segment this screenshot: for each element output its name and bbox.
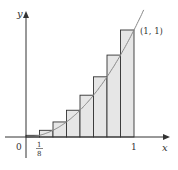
rectangle [67,110,81,137]
fraction-denominator: 8 [37,150,41,158]
y-axis-arrow-icon [23,11,29,18]
riemann-sum-diagram: y x 0 1 (1, 1) 1 8 [0,0,178,170]
y-axis-label: y [16,8,23,19]
x-one-label: 1 [131,142,137,152]
origin-label: 0 [16,142,22,152]
rectangle [121,30,135,137]
upper-sum-rectangles [26,30,134,137]
x-axis-label: x [162,142,168,153]
rectangle [107,55,121,137]
fraction-numerator: 1 [37,141,41,149]
x-axis-arrow-icon [163,134,170,140]
rectangle [80,95,94,137]
point-label: (1, 1) [140,26,163,36]
